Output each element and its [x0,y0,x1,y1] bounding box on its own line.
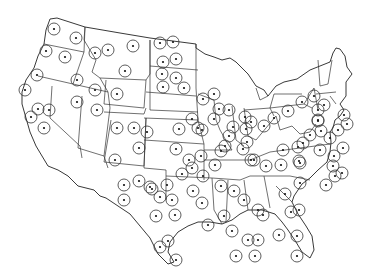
marker-dot-icon [263,125,265,127]
marker-dot-icon [342,147,344,149]
marker-dot-icon [183,87,185,89]
marker-dot-icon [201,202,203,204]
marker-dot-icon [123,184,125,186]
marker-dot-icon [320,130,322,132]
marker-dot-icon [337,129,339,131]
marker-dot-icon [174,214,176,216]
marker-dot-icon [200,155,202,157]
marker-dot-icon [37,108,39,110]
marker-dot-icon [132,45,134,47]
marker-dot-icon [45,50,47,52]
marker-dot-icon [175,77,177,79]
marker-dot-icon [228,135,230,137]
marker-dot-icon [107,49,109,51]
marker-dot-icon [172,41,174,43]
marker-dot-icon [302,142,304,144]
map-marker [257,209,269,221]
marker-dot-icon [223,215,225,217]
marker-dot-icon [207,224,209,226]
marker-dot-icon [159,246,161,248]
marker-dot-icon [287,110,289,112]
marker-dot-icon [167,240,169,242]
marker-dot-icon [138,147,140,149]
marker-dot-icon [188,159,190,161]
marker-dot-icon [175,148,177,150]
marker-dot-icon [298,209,300,211]
marker-dot-icon [329,137,331,139]
marker-dot-icon [76,79,78,81]
marker-dot-icon [162,86,164,88]
marker-dot-icon [64,56,66,58]
marker-dot-icon [296,255,298,257]
marker-dot-icon [250,159,252,161]
marker-dot-icon [151,188,153,190]
marker-dot-icon [246,141,248,143]
marker-dot-icon [228,109,230,111]
marker-dot-icon [133,127,135,129]
marker-dot-icon [175,58,177,60]
marker-dot-icon [202,98,204,100]
marker-dot-icon [30,116,32,118]
marker-dot-icon [94,52,96,54]
marker-dot-icon [202,175,204,177]
marker-dot-icon [231,230,233,232]
marker-dot-icon [192,190,194,192]
marker-dot-icon [341,172,343,174]
marker-dot-icon [250,121,252,123]
marker-dot-icon [159,42,161,44]
marker-dot-icon [114,159,116,161]
marker-dot-icon [75,37,77,39]
map-marker [336,167,348,179]
marker-dot-icon [325,184,327,186]
us-map [0,0,368,274]
marker-dot-icon [243,199,245,201]
marker-dot-icon [149,186,151,188]
marker-dot-icon [296,235,298,237]
marker-dot-icon [175,259,177,261]
map-marker [226,225,238,237]
marker-dot-icon [159,196,161,198]
marker-dot-icon [298,160,300,162]
marker-dot-icon [161,73,163,75]
marker-dot-icon [309,134,311,136]
marker-dot-icon [253,159,255,161]
marker-dot-icon [94,89,96,91]
marker-dot-icon [332,165,334,167]
marker-dot-icon [218,108,220,110]
marker-dot-icon [280,164,282,166]
marker-dot-icon [273,117,275,119]
map-marker [249,250,261,262]
marker-dot-icon [191,118,193,120]
marker-dot-icon [220,150,222,152]
marker-dot-icon [220,185,222,187]
marker-dot-icon [162,61,164,63]
marker-dot-icon [166,184,168,186]
marker-dot-icon [247,239,249,241]
map-marker [291,250,303,262]
map-marker [230,250,242,262]
marker-dot-icon [299,162,301,164]
marker-dot-icon [232,126,234,128]
marker-dot-icon [323,104,325,106]
marker-dot-icon [171,199,173,201]
marker-dot-icon [76,101,78,103]
map-marker [337,142,349,154]
marker-dot-icon [254,255,256,257]
map-marker [332,124,344,136]
marker-dot-icon [284,193,286,195]
marker-dot-icon [317,120,319,122]
marker-dot-icon [181,173,183,175]
marker-dot-icon [43,127,45,129]
map-marker [273,229,285,241]
marker-dot-icon [257,239,259,241]
marker-dot-icon [245,128,247,130]
marker-dot-icon [278,234,280,236]
marker-dot-icon [299,182,301,184]
marker-dot-icon [333,155,335,157]
marker-dot-icon [116,127,118,129]
marker-dot-icon [191,167,193,169]
marker-dot-icon [233,190,235,192]
marker-dot-icon [334,175,336,177]
marker-dot-icon [138,180,140,182]
marker-dot-icon [155,215,157,217]
